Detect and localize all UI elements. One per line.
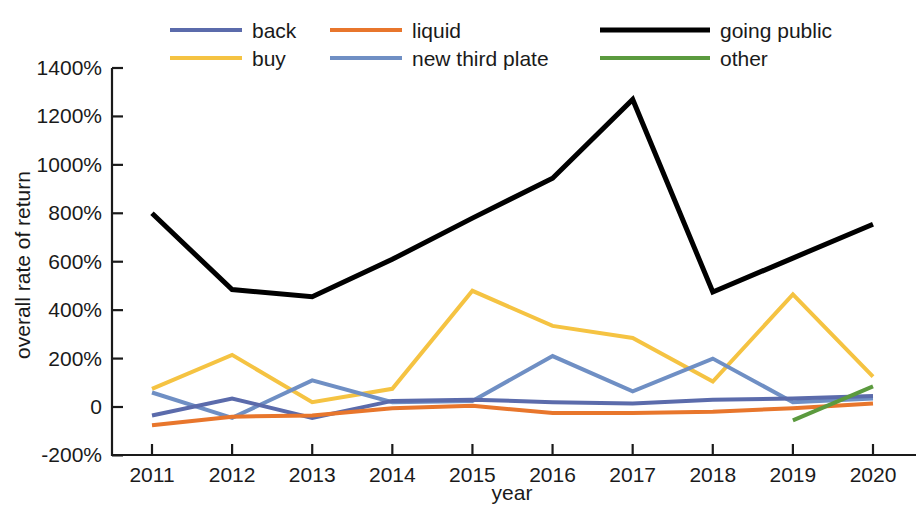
x-tick-label: 2011 [129, 463, 174, 486]
x-tick-label: 2014 [369, 463, 416, 486]
legend-label-back: back [252, 19, 297, 42]
y-tick-label: -200% [41, 443, 102, 466]
y-axis-title: overall rate of return [11, 171, 34, 359]
series-line-going-public [152, 100, 873, 297]
chart-series-lines [152, 100, 873, 426]
x-tick-label: 2012 [209, 463, 256, 486]
legend-entry[interactable]: other [600, 47, 768, 70]
x-tick-label: 2013 [289, 463, 336, 486]
x-axis-ticks: 2011201220132014201520162017201820192020 [129, 444, 896, 486]
y-tick-label: 1400% [37, 56, 102, 79]
line-chart: backliquidgoing publicbuynew third plate… [0, 0, 916, 505]
x-tick-label: 2018 [689, 463, 736, 486]
y-tick-label: 600% [48, 250, 102, 273]
legend-label-going-public: going public [720, 19, 832, 42]
y-tick-label: 400% [48, 298, 102, 321]
legend-label-liquid: liquid [412, 19, 461, 42]
chart-canvas: backliquidgoing publicbuynew third plate… [0, 0, 916, 505]
y-axis-ticks: 1400%1200%1000%800%600%400%200%0-200% [37, 56, 123, 466]
legend-entry[interactable]: going public [600, 19, 832, 42]
y-tick-label: 200% [48, 347, 102, 370]
legend-entry[interactable]: liquid [330, 19, 461, 42]
legend-label-other: other [720, 47, 768, 70]
x-tick-label: 2015 [449, 463, 496, 486]
x-axis-title: year [492, 481, 533, 504]
legend-label-buy: buy [252, 47, 286, 70]
x-tick-label: 2019 [770, 463, 817, 486]
y-tick-label: 0 [90, 395, 102, 418]
x-tick-label: 2017 [609, 463, 656, 486]
legend-label-new-third-plate: new third plate [412, 47, 549, 70]
chart-legend: backliquidgoing publicbuynew third plate… [170, 19, 832, 70]
y-tick-label: 800% [48, 201, 102, 224]
y-tick-label: 1200% [37, 104, 102, 127]
legend-entry[interactable]: back [170, 19, 297, 42]
x-tick-label: 2016 [529, 463, 576, 486]
legend-entry[interactable]: new third plate [330, 47, 549, 70]
legend-entry[interactable]: buy [170, 47, 286, 70]
x-tick-label: 2020 [850, 463, 897, 486]
y-tick-label: 1000% [37, 153, 102, 176]
